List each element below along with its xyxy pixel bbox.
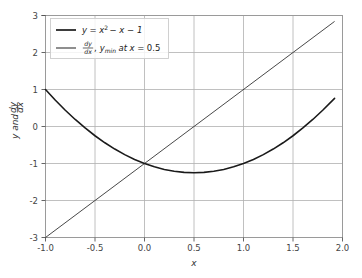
svg-text:dx: dx bbox=[15, 101, 25, 113]
x-tick-label: 2.0 bbox=[336, 243, 350, 253]
x-tick-label: -0.5 bbox=[87, 243, 104, 253]
y-tick-label: 2 bbox=[33, 48, 38, 58]
x-tick-label: 1.5 bbox=[286, 243, 300, 253]
svg-text:dx: dx bbox=[84, 48, 92, 55]
y-tick-label: 1 bbox=[33, 85, 38, 95]
y-tick-label: -2 bbox=[30, 196, 38, 206]
y-tick-label: 3 bbox=[33, 11, 38, 21]
x-tick-label: 1.0 bbox=[237, 243, 251, 253]
legend-label-function: y=x2− x − 1 bbox=[81, 24, 142, 35]
svg-text:y and: y and bbox=[10, 114, 20, 140]
y-tick-label: -3 bbox=[30, 233, 38, 243]
x-tick-label: -1.0 bbox=[37, 243, 54, 253]
x-axis-label: x bbox=[190, 258, 197, 268]
legend[interactable]: y=x2− x − 1 dy dx ,yminatx=0.5 bbox=[51, 19, 169, 59]
figure-canvas: -1.0 -0.5 0.0 0.5 1.0 1.5 2.0 3 2 1 0 -1… bbox=[0, 0, 362, 278]
x-tick-label: 0.5 bbox=[187, 243, 201, 253]
y-tick-label: -1 bbox=[30, 159, 38, 169]
y-axis-label-fraction: dy dx bbox=[8, 101, 26, 113]
legend-fraction-dydx: dy dx bbox=[83, 40, 93, 55]
y-tick-label: 0 bbox=[33, 122, 38, 132]
x-tick-label: 0.0 bbox=[138, 243, 152, 253]
chart-svg: -1.0 -0.5 0.0 0.5 1.0 1.5 2.0 3 2 1 0 -1… bbox=[0, 0, 362, 278]
